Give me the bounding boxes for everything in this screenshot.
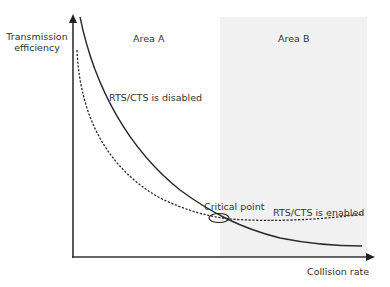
area-b-region	[220, 17, 367, 257]
critical-point-label: Critical point	[204, 201, 264, 212]
rts-disabled-label: RTS/CTS is disabled	[109, 92, 202, 103]
rts-enabled-label: RTS/CTS is enabled	[273, 207, 364, 218]
area-a-label: Area A	[133, 33, 164, 44]
x-axis-arrow-icon	[366, 253, 375, 261]
y-axis-arrow-icon	[69, 14, 77, 23]
area-b-label: Area B	[278, 33, 309, 44]
y-axis-label-line1: Transmission	[2, 31, 72, 42]
y-axis-label-line2: efficiency	[2, 42, 72, 53]
y-axis-label: Transmission efficiency	[2, 31, 72, 53]
x-axis-label: Collision rate	[307, 266, 369, 277]
